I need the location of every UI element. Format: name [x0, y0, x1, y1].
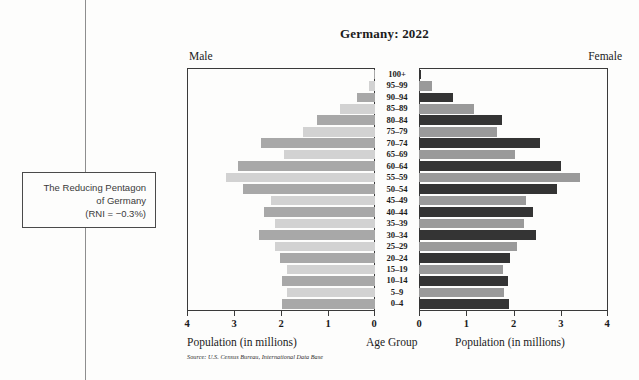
- pyramid-bar: [419, 219, 524, 229]
- annotation-line-3: (RNI = −0.3%): [85, 207, 146, 220]
- age-group-label: 75–79: [387, 126, 408, 137]
- age-group-label: 35–39: [387, 218, 408, 229]
- pyramid-row: [187, 253, 375, 264]
- chart-title: Germany: 2022: [0, 26, 639, 42]
- pyramid-bar: [243, 184, 375, 194]
- axis-tick-label: 1: [325, 318, 330, 329]
- annotation-box: The Reducing Pentagon of Germany (RNI = …: [22, 172, 156, 228]
- age-group-axis: 100+95–9990–9485–8980–8475–7970–7465–696…: [375, 69, 419, 310]
- pyramid-bar: [280, 253, 375, 263]
- chart-title-text: Germany: 2022: [210, 26, 429, 41]
- pyramid-row: [187, 275, 375, 286]
- pyramid-row: [419, 138, 608, 149]
- source-note: Source: U.S. Census Bureau, Internationa…: [187, 353, 323, 360]
- age-group-label: 95–99: [387, 80, 408, 91]
- age-group-label: 45–49: [387, 195, 408, 206]
- pyramid-row: [419, 298, 608, 309]
- axis-tick: [514, 311, 515, 316]
- age-group-label: 80–84: [387, 115, 408, 126]
- pyramid-bar: [419, 230, 536, 240]
- pyramid-row: [187, 115, 375, 126]
- axis-tick-label: 4: [184, 318, 189, 329]
- pyramid-bar: [303, 127, 375, 137]
- pyramid-bar: [271, 196, 375, 206]
- pyramid-row: [187, 184, 375, 195]
- pyramid-bar: [275, 219, 375, 229]
- age-group-label: 10–14: [387, 275, 408, 286]
- male-label: Male: [189, 50, 213, 62]
- pyramid-row: [419, 184, 608, 195]
- pyramid-row: [419, 230, 608, 241]
- age-group-label: 30–34: [387, 230, 408, 241]
- female-axis-caption: Population (in millions): [455, 336, 565, 348]
- pyramid-row: [187, 195, 375, 206]
- axis-tick: [328, 311, 329, 316]
- age-group-label: 100+: [388, 69, 405, 80]
- axis-tick: [419, 311, 420, 316]
- pyramid-bar: [419, 207, 533, 217]
- age-group-label: 65–69: [387, 149, 408, 160]
- age-group-label: 90–94: [387, 92, 408, 103]
- pyramid-bar: [238, 161, 375, 171]
- pyramid-bar: [282, 299, 375, 309]
- pyramid-row: [187, 126, 375, 137]
- pyramid-bar: [419, 115, 502, 125]
- pyramid-bar: [275, 242, 375, 252]
- pyramid-row: [419, 195, 608, 206]
- axis-tick: [607, 311, 608, 316]
- pyramid-bar: [419, 70, 421, 80]
- female-axis-ticks: [419, 311, 608, 317]
- pyramid-row: [419, 92, 608, 103]
- pyramid-bar: [259, 230, 375, 240]
- pyramid-bar: [419, 196, 526, 206]
- pyramid-row: [187, 69, 375, 80]
- axis-tick-label: 4: [604, 318, 609, 329]
- pyramid-bar: [419, 127, 497, 137]
- axis-tick: [374, 311, 375, 316]
- axis-tick-label: 0: [371, 318, 376, 329]
- axis-tick-label: 0: [416, 318, 421, 329]
- pyramid-row: [187, 241, 375, 252]
- pyramid-row: [187, 230, 375, 241]
- pyramid-bar: [419, 299, 509, 309]
- axis-tick-label: 2: [511, 318, 516, 329]
- pyramid-row: [187, 264, 375, 275]
- age-group-label: 20–24: [387, 253, 408, 264]
- pyramid-bar: [419, 173, 580, 183]
- pyramid-row: [419, 207, 608, 218]
- pyramid-bar: [419, 242, 517, 252]
- pyramid-row: [419, 80, 608, 91]
- pyramid-bar: [287, 288, 375, 298]
- age-group-label: 40–44: [387, 207, 408, 218]
- pyramid-bar: [340, 104, 375, 114]
- age-group-label: 60–64: [387, 161, 408, 172]
- pyramid-bar: [419, 138, 540, 148]
- pyramid-bar: [282, 276, 375, 286]
- axis-tick: [234, 311, 235, 316]
- pyramid-row: [419, 287, 608, 298]
- pyramid-row: [187, 92, 375, 103]
- pyramid-bar: [419, 276, 508, 286]
- age-group-label: 15–19: [387, 264, 408, 275]
- age-group-label: 70–74: [387, 138, 408, 149]
- pyramid-bar: [419, 288, 504, 298]
- pyramid-figure: The Reducing Pentagon of Germany (RNI = …: [0, 0, 639, 380]
- pyramid-bar: [357, 93, 375, 103]
- pyramid-row: [419, 161, 608, 172]
- axis-tick: [561, 311, 562, 316]
- pyramid-bar: [419, 253, 510, 263]
- annotation-line-1: The Reducing Pentagon: [44, 181, 146, 194]
- pyramid-row: [419, 218, 608, 229]
- male-axis-ticks: [187, 311, 375, 317]
- male-axis-caption: Population (in millions): [187, 336, 297, 348]
- pyramid-row: [187, 138, 375, 149]
- pyramid-row: [419, 172, 608, 183]
- axis-tick: [281, 311, 282, 316]
- pyramid-row: [187, 207, 375, 218]
- pyramid-bar: [419, 184, 557, 194]
- pyramid-row: [419, 126, 608, 137]
- axis-tick-label: 3: [231, 318, 236, 329]
- pyramid-row: [187, 298, 375, 309]
- pyramid-bar: [419, 265, 503, 275]
- pyramid-bar: [261, 138, 375, 148]
